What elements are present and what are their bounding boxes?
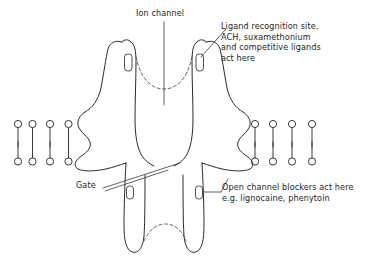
- receptor-subunit-left: [75, 40, 154, 253]
- diagram-canvas: Ion channel Ligand recognition site. ACH…: [0, 0, 389, 269]
- label-open-channel-blockers: Open channel blockers act here e.g. lign…: [222, 182, 353, 203]
- blocker-pocket-left: [127, 186, 134, 199]
- intracellular-vestibule-dashed-arc: [144, 224, 186, 241]
- gate-leader-line: [103, 163, 180, 191]
- lipid-molecule: [46, 142, 53, 165]
- receptor-diagram-svg: [0, 0, 389, 269]
- lipid-molecule: [29, 142, 36, 165]
- label-ligand-site-line-2: ACH, suxamethonium: [221, 32, 321, 43]
- label-ligand-site-line-1: Ligand recognition site.: [221, 21, 321, 32]
- label-ion-channel-line-1: Ion channel: [136, 8, 184, 19]
- label-ligand-recognition-site: Ligand recognition site. ACH, suxamethon…: [221, 21, 321, 63]
- label-gate: Gate: [76, 180, 96, 191]
- lipid-molecule: [308, 142, 315, 165]
- lipid-molecule: [65, 142, 72, 165]
- lipid-molecule: [269, 142, 276, 165]
- lipid-molecule: [288, 142, 295, 165]
- receptor-subunit-right: [174, 40, 253, 253]
- label-ligand-site-line-3: and competitive ligands: [221, 42, 321, 53]
- blocker-pocket-right: [196, 186, 203, 199]
- label-ligand-site-line-4: act here: [221, 53, 321, 64]
- label-ion-channel: Ion channel: [136, 8, 184, 19]
- ligand-pocket-left: [125, 54, 133, 71]
- lipid-molecule: [14, 142, 21, 165]
- label-gate-line-1: Gate: [76, 180, 96, 191]
- lipid-bilayer-left: [14, 120, 72, 165]
- ligand-pocket-right: [196, 54, 204, 71]
- lipid-bilayer-right: [251, 120, 315, 165]
- label-blockers-line-1: Open channel blockers act here: [222, 182, 353, 193]
- label-blockers-line-2: e.g. lignocaine, phenytoin: [222, 193, 353, 204]
